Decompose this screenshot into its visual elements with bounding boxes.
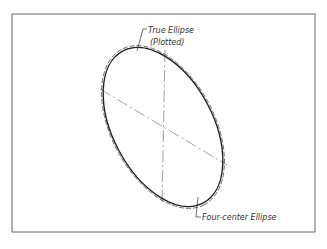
true-ellipse	[78, 28, 247, 227]
leader-four-center	[196, 197, 201, 217]
label-plotted: (Plotted)	[150, 38, 184, 47]
ellipse-diagram: True Ellipse (Plotted) Four-center Ellip…	[0, 0, 327, 249]
label-true-ellipse: True Ellipse	[148, 26, 194, 35]
label-four-center: Four-center Ellipse	[202, 213, 277, 222]
